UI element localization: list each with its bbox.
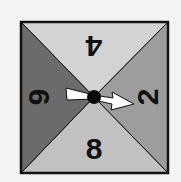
spinner-diagram: 4 2 8 6	[0, 0, 181, 182]
section-left-label: 6	[23, 89, 56, 106]
spinner-hub	[87, 90, 101, 104]
section-bottom-label: 8	[86, 132, 103, 165]
section-right-label: 2	[131, 89, 164, 106]
section-top-label: 4	[85, 30, 102, 63]
